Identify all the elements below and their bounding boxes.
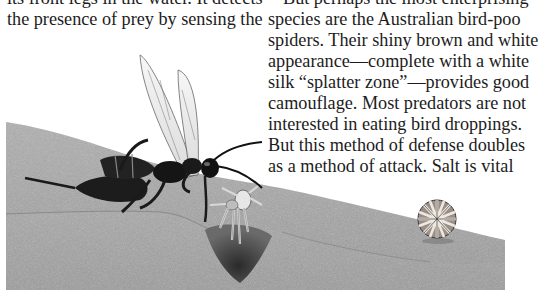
text-line: as a method of attack. Salt is vital — [268, 156, 538, 177]
curled-wheel-spider — [418, 200, 456, 244]
text-line: appearance—complete with a white — [268, 51, 538, 72]
burrow-hole — [205, 225, 272, 283]
text-line: But this method of defense doubles — [268, 135, 538, 156]
text-line: silk “splatter zone”—provides good — [268, 72, 538, 93]
text-line: interested in eating bird droppings. — [268, 114, 538, 135]
text-line: species are the Australian bird-poo — [268, 9, 538, 30]
text-line: the presence of prey by sensing the — [7, 9, 263, 30]
text-line: spiders. Their shiny brown and white — [268, 30, 538, 51]
wasp — [25, 55, 262, 222]
text-line: But perhaps the most enterprising — [268, 0, 538, 9]
caught-spider — [210, 186, 262, 244]
text-line: its front legs in the water. It detects — [7, 0, 263, 9]
right-text-column: But perhaps the most enterprising specie… — [268, 0, 538, 177]
text-line: camouflage. Most predators are not — [268, 93, 538, 114]
left-text-column: its front legs in the water. It detects … — [7, 0, 263, 30]
